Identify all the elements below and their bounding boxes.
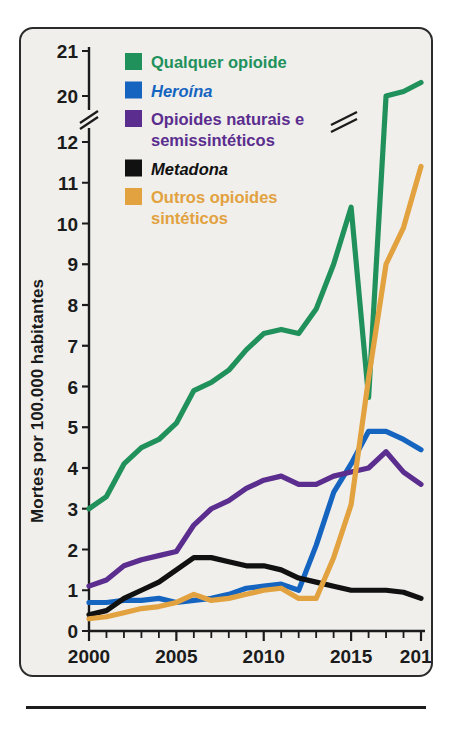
y-axis-tick-label: 20 bbox=[57, 86, 78, 107]
y-axis-tick-label: 10 bbox=[57, 214, 78, 235]
y-axis-title: Mortes por 100.000 habitantes bbox=[28, 279, 47, 523]
y-axis-tick-label: 7 bbox=[67, 336, 78, 357]
legend-swatch-purple bbox=[125, 110, 142, 127]
legend-label-line2: semissintéticos bbox=[151, 131, 275, 149]
legend-entry: Metadona bbox=[125, 160, 228, 178]
y-axis-tick-label: 21 bbox=[57, 41, 79, 62]
legend-swatch-blue bbox=[125, 82, 142, 99]
legend-label-line2: sintéticos bbox=[151, 209, 228, 227]
x-axis-tick-label: 2019 bbox=[400, 646, 433, 667]
y-axis-tick-label: 9 bbox=[67, 254, 78, 275]
x-axis-tick-label: 2015 bbox=[330, 646, 373, 667]
legend-swatch-green bbox=[125, 53, 142, 70]
line-chart: 0123456789101112202120002005201020152019… bbox=[21, 29, 433, 677]
bottom-divider-rule bbox=[26, 706, 426, 709]
x-axis-tick-label: 2000 bbox=[68, 646, 110, 667]
y-axis-tick-label: 1 bbox=[67, 580, 78, 601]
y-axis-tick-label: 5 bbox=[67, 417, 78, 438]
legend-swatch-orange bbox=[125, 188, 142, 205]
legend-entry: Outros opioidessintéticos bbox=[125, 188, 278, 227]
y-axis-tick-label: 11 bbox=[58, 173, 79, 194]
y-axis-tick-label: 12 bbox=[57, 132, 78, 153]
legend-label: Heroína bbox=[151, 82, 212, 100]
legend-swatch-black bbox=[125, 160, 142, 177]
figure-root: 0123456789101112202120002005201020152019… bbox=[0, 0, 451, 731]
chart-panel: 0123456789101112202120002005201020152019… bbox=[19, 27, 433, 677]
x-axis-tick-label: 2005 bbox=[155, 646, 198, 667]
legend-label: Outros opioides bbox=[151, 188, 278, 206]
legend-entry: Heroína bbox=[125, 82, 212, 100]
legend-label: Opioides naturais e bbox=[151, 110, 304, 128]
x-axis-tick-label: 2010 bbox=[243, 646, 285, 667]
y-axis-tick-label: 2 bbox=[67, 540, 78, 561]
y-axis-tick-label: 6 bbox=[67, 377, 78, 398]
y-axis-tick-label: 4 bbox=[67, 458, 78, 479]
legend-label: Qualquer opioide bbox=[151, 53, 287, 71]
legend-entry: Opioides naturais esemissintéticos bbox=[125, 110, 304, 149]
y-axis-tick-label: 3 bbox=[67, 499, 78, 520]
series-line-hero-na bbox=[89, 431, 421, 602]
y-axis-tick-label: 0 bbox=[67, 621, 78, 642]
legend-label: Metadona bbox=[151, 160, 228, 178]
legend-entry: Qualquer opioide bbox=[125, 53, 287, 71]
y-axis-tick-label: 8 bbox=[67, 295, 78, 316]
